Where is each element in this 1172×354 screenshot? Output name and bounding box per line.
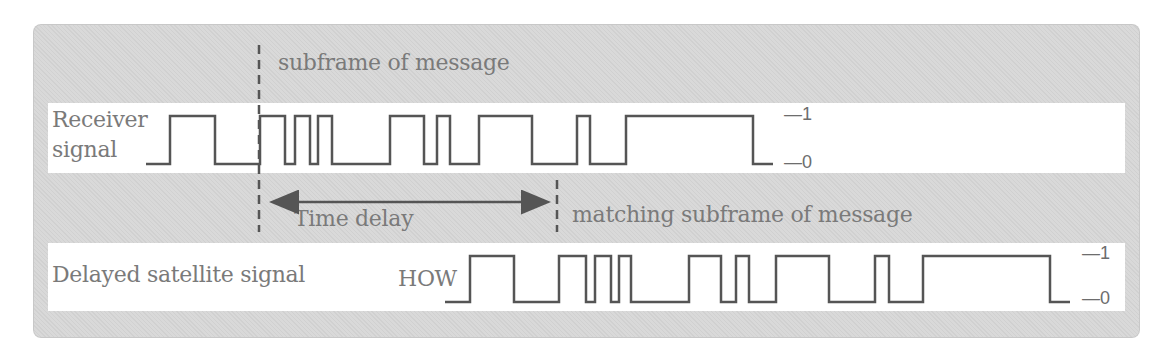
satellite-waveform xyxy=(445,256,1070,302)
receiver-waveform xyxy=(146,116,773,164)
diagram-graphics xyxy=(0,0,1172,354)
